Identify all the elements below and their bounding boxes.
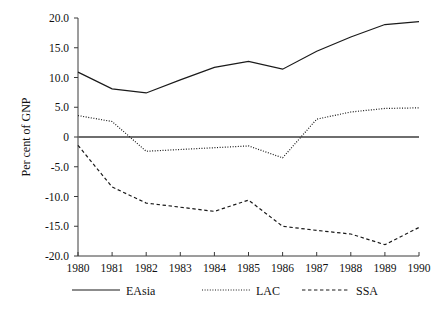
x-tick-label: 1981 bbox=[101, 262, 124, 274]
line-chart: Per cent of GNP 20.015.010.05.00-5.0-10.… bbox=[0, 0, 442, 311]
y-tick-label: 10.0 bbox=[49, 72, 69, 84]
y-tick-label: 20.0 bbox=[49, 12, 69, 24]
x-tick-label: 1987 bbox=[305, 262, 328, 274]
y-axis-title: Per cent of GNP bbox=[19, 97, 33, 176]
legend-label-easia: EAsia bbox=[126, 284, 156, 298]
y-tick-label: -5.0 bbox=[51, 161, 69, 173]
y-tick-label: -20.0 bbox=[45, 250, 69, 262]
y-tick-label: 0 bbox=[63, 131, 69, 143]
x-tick-label: 1985 bbox=[237, 262, 260, 274]
x-tick-label: 1988 bbox=[339, 262, 362, 274]
x-tick-label: 1982 bbox=[135, 262, 158, 274]
x-tick-label: 1983 bbox=[169, 262, 192, 274]
legend-label-lac: LAC bbox=[256, 284, 280, 298]
chart-container: Per cent of GNP 20.015.010.05.00-5.0-10.… bbox=[0, 0, 442, 311]
x-tick-labels: 1980198119821983198419851986198719881989… bbox=[67, 262, 431, 274]
x-tick-label: 1984 bbox=[203, 262, 226, 274]
y-tick-label: -10.0 bbox=[45, 191, 69, 203]
y-tick-label: 5.0 bbox=[55, 101, 70, 113]
legend-label-ssa: SSA bbox=[356, 284, 378, 298]
x-tick-label: 1990 bbox=[408, 262, 431, 274]
x-tick-label: 1980 bbox=[67, 262, 90, 274]
y-tick-label: -15.0 bbox=[45, 220, 69, 232]
x-tick-label: 1986 bbox=[271, 262, 294, 274]
x-tick-label: 1989 bbox=[373, 262, 396, 274]
y-tick-label: 15.0 bbox=[49, 42, 69, 54]
